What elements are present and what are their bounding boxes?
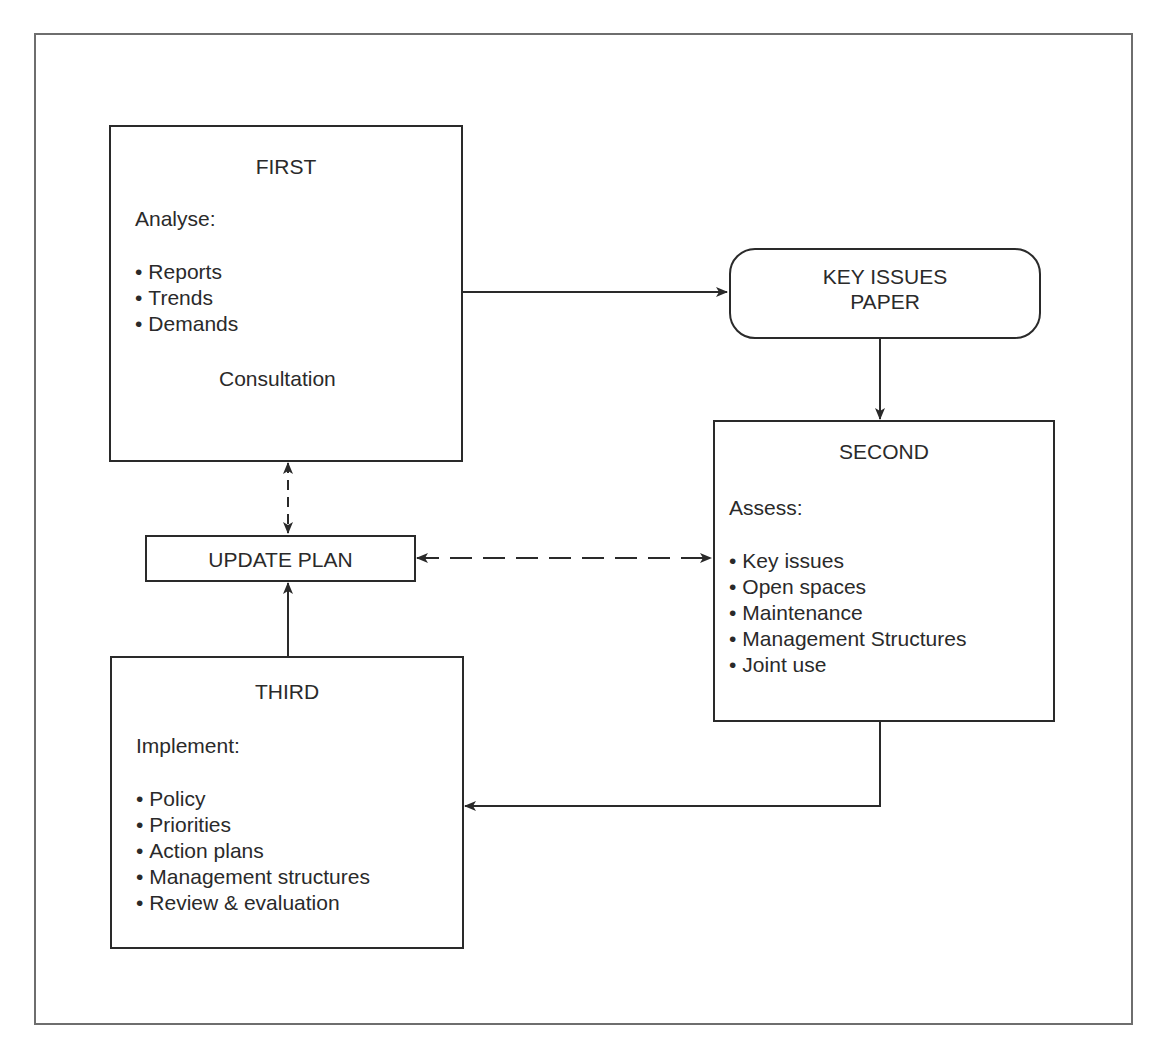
arrow-second-to-third <box>465 721 880 806</box>
second-heading: Assess: <box>729 496 803 520</box>
update-plan-label: UPDATE PLAN <box>147 547 414 572</box>
list-item: Priorities <box>136 812 370 838</box>
update-plan-box: UPDATE PLAN <box>145 535 416 582</box>
list-item: Key issues <box>729 548 966 574</box>
key-issues-line1: KEY ISSUES <box>731 264 1039 289</box>
list-item: Open spaces <box>729 574 966 600</box>
key-issues-paper-box: KEY ISSUES PAPER <box>729 248 1041 339</box>
list-item: Reports <box>135 259 238 285</box>
first-list: Reports Trends Demands <box>135 259 238 337</box>
list-item: Demands <box>135 311 238 337</box>
first-heading: Analyse: <box>135 207 216 231</box>
list-item: Action plans <box>136 838 370 864</box>
list-item: Review & evaluation <box>136 890 370 916</box>
third-box: THIRD Implement: Policy Priorities Actio… <box>110 656 464 949</box>
list-item: Policy <box>136 786 370 812</box>
list-item: Management Structures <box>729 626 966 652</box>
list-item: Management structures <box>136 864 370 890</box>
first-box: FIRST Analyse: Reports Trends Demands Co… <box>109 125 463 462</box>
second-list: Key issues Open spaces Maintenance Manag… <box>729 548 966 678</box>
list-item: Joint use <box>729 652 966 678</box>
list-item: Maintenance <box>729 600 966 626</box>
second-box: SECOND Assess: Key issues Open spaces Ma… <box>713 420 1055 722</box>
first-footer: Consultation <box>219 367 336 391</box>
list-item: Trends <box>135 285 238 311</box>
key-issues-line2: PAPER <box>731 289 1039 314</box>
first-title: FIRST <box>111 155 461 179</box>
third-heading: Implement: <box>136 734 240 758</box>
third-list: Policy Priorities Action plans Managemen… <box>136 786 370 916</box>
third-title: THIRD <box>112 680 462 704</box>
second-title: SECOND <box>715 440 1053 464</box>
